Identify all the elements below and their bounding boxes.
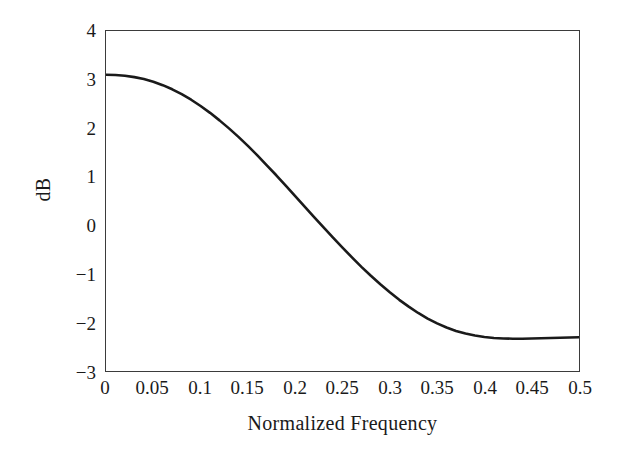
data-curve-svg — [106, 31, 579, 371]
y-tick-label: 3 — [54, 70, 96, 89]
y-tick-label: 1 — [54, 167, 96, 186]
figure-canvas: 4 3 2 1 0 −1 −2 −3 0 0.05 0.1 0.15 0.2 0… — [0, 0, 617, 462]
x-axis-title: Normalized Frequency — [105, 412, 580, 435]
y-tick-label: −1 — [54, 265, 96, 284]
x-tick-label: 0.5 — [545, 378, 615, 397]
y-tick-label: 2 — [54, 119, 96, 138]
y-axis-title: dB — [32, 145, 55, 235]
plot-area — [105, 30, 580, 372]
y-tick-label: −2 — [54, 314, 96, 333]
data-series-line — [106, 75, 579, 339]
y-tick-label: 4 — [54, 21, 96, 40]
y-tick-label: 0 — [54, 216, 96, 235]
